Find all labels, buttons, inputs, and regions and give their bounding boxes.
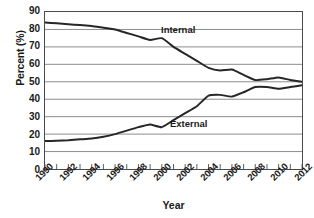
x-tick-label: 1994 [80,161,102,183]
series-label-internal: Internal [161,24,195,35]
x-tick-label: 2006 [221,161,243,183]
x-tick-label: 2004 [198,161,220,183]
x-tick-label: 2012 [292,161,314,183]
x-tick-label: 1990 [33,161,55,183]
series-label-external: External [170,118,208,129]
x-tick-label: 2010 [268,161,290,183]
x-tick-label: 1996 [104,161,126,183]
x-tick-label: 1998 [127,161,149,183]
x-tick-label: 1992 [57,161,79,183]
x-axis-tick-labels: 1990199219941996199820002002200420062008… [0,0,314,218]
chart-container: Percent (%) 9080706050403020100 19901992… [0,0,314,218]
x-axis-title: Year [44,199,303,211]
x-tick-label: 2008 [245,161,267,183]
x-tick-label: 2002 [174,161,196,183]
x-tick-label: 2000 [151,161,173,183]
